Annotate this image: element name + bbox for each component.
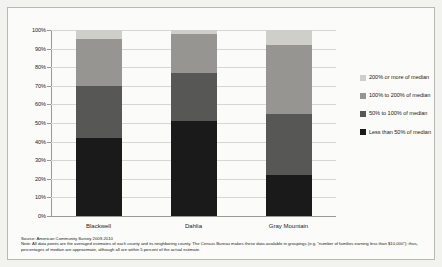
bar-segment[interactable] <box>76 138 122 216</box>
bar-segment[interactable] <box>171 73 217 121</box>
y-axis-tick-mark <box>47 197 51 198</box>
y-axis-tick-mark <box>47 30 51 31</box>
legend-item-label: Less than 50% of median <box>369 129 431 136</box>
x-axis-category-label: Blackwell <box>54 223 144 229</box>
y-axis-tick-mark <box>47 142 51 143</box>
y-axis-tick-label: 90% <box>35 46 46 52</box>
y-axis-tick-label: 10% <box>35 194 46 200</box>
bar-gray-mountain[interactable] <box>266 30 312 216</box>
bar-dahlia[interactable] <box>171 30 217 216</box>
legend-item[interactable]: Less than 50% of median <box>360 129 438 136</box>
legend-swatch-icon <box>360 111 366 117</box>
legend-item[interactable]: 100% to 200% of median <box>360 92 438 99</box>
bar-segment[interactable] <box>171 34 217 73</box>
y-axis-tick-mark <box>47 123 51 124</box>
legend-swatch-icon <box>360 93 366 99</box>
y-axis-tick-mark <box>47 86 51 87</box>
y-axis-tick-label: 0% <box>38 213 46 219</box>
bar-segment[interactable] <box>171 30 217 34</box>
chart-legend: 200% or more of median100% to 200% of me… <box>360 74 438 147</box>
figure-frame: 0%10%20%30%40%50%60%70%80%90%100% Blackw… <box>7 7 435 260</box>
footnote-note: Note: All data points are the averaged e… <box>21 241 431 252</box>
bar-segment[interactable] <box>266 45 312 114</box>
y-axis-tick-mark <box>47 104 51 105</box>
y-axis-tick-mark <box>47 216 51 217</box>
y-axis-tick-label: 70% <box>35 83 46 89</box>
legend-swatch-icon <box>360 75 366 81</box>
x-axis-category-label: Dahlia <box>149 223 239 229</box>
y-axis-tick-mark <box>47 67 51 68</box>
y-axis-tick-label: 30% <box>35 157 46 163</box>
bar-segment[interactable] <box>76 39 122 86</box>
bar-blackwell[interactable] <box>76 30 122 216</box>
legend-item[interactable]: 200% or more of median <box>360 74 438 81</box>
legend-item-label: 200% or more of median <box>369 74 429 81</box>
bar-segment[interactable] <box>266 30 312 45</box>
plot-area <box>51 30 336 216</box>
bar-segment[interactable] <box>266 175 312 216</box>
legend-item[interactable]: 50% to 100% of median <box>360 110 438 117</box>
y-axis-tick-mark <box>47 160 51 161</box>
gridline <box>51 216 336 217</box>
bar-segment[interactable] <box>76 30 122 39</box>
y-axis-tick-label: 60% <box>35 101 46 107</box>
y-axis-tick-label: 80% <box>35 64 46 70</box>
chart-footnotes: Source: American Community Survey 2009-2… <box>21 236 431 252</box>
legend-item-label: 50% to 100% of median <box>369 110 427 117</box>
y-axis-tick-mark <box>47 179 51 180</box>
y-axis-tick-mark <box>47 49 51 50</box>
legend-swatch-icon <box>360 129 366 135</box>
bar-segment[interactable] <box>76 86 122 138</box>
y-axis-tick-label: 40% <box>35 139 46 145</box>
legend-item-label: 100% to 200% of median <box>369 92 430 99</box>
x-axis-category-label: Gray Mountain <box>244 223 334 229</box>
y-axis-tick-label: 100% <box>32 27 46 33</box>
y-axis-labels: 0%10%20%30%40%50%60%70%80%90%100% <box>18 30 46 216</box>
chart-page: 0%10%20%30%40%50%60%70%80%90%100% Blackw… <box>0 0 442 267</box>
bar-segment[interactable] <box>266 114 312 175</box>
y-axis-tick-label: 50% <box>35 120 46 126</box>
y-axis-tick-label: 20% <box>35 176 46 182</box>
bar-segment[interactable] <box>171 121 217 216</box>
